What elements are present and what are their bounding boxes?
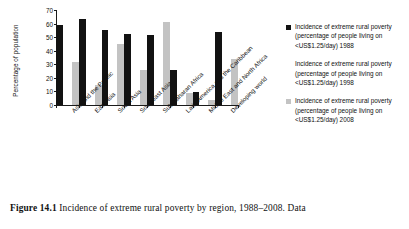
bar-1988	[56, 25, 63, 105]
legend-label: Incidence of extreme rural poverty (perc…	[295, 22, 406, 50]
legend-item: Incidence of extreme rural poverty (perc…	[286, 22, 406, 50]
plot-area: 010203040506070 Asia and the PacificEast…	[56, 10, 238, 105]
x-tick-mark	[102, 105, 103, 108]
white-square-icon	[286, 62, 291, 67]
figure-container: Percentage of population 010203040506070…	[0, 0, 409, 229]
gray-square-icon	[286, 99, 291, 104]
x-tick-mark	[193, 105, 194, 108]
figure-number: Figure 14.1	[10, 203, 57, 213]
legend-label: Incidence of extreme rural poverty (perc…	[295, 96, 406, 124]
x-tick-mark	[215, 105, 216, 108]
black-square-icon	[286, 25, 291, 30]
bar-2008	[72, 62, 79, 105]
legend-label: Incidence of extreme rural poverty (perc…	[295, 59, 406, 87]
x-tick-mark	[124, 105, 125, 108]
bar-chart: Percentage of population 010203040506070…	[0, 0, 258, 189]
x-tick-mark	[79, 105, 80, 108]
x-tick-mark	[238, 105, 239, 108]
y-axis-label: Percentage of population	[12, 16, 19, 106]
caption-text: Incidence of extreme rural poverty by re…	[59, 203, 306, 213]
legend-item: Incidence of extreme rural poverty (perc…	[286, 96, 406, 124]
legend-item: Incidence of extreme rural poverty (perc…	[286, 59, 406, 87]
x-tick-mark	[147, 105, 148, 108]
x-tick-mark	[170, 105, 171, 108]
bar-group	[56, 10, 79, 105]
x-tick-mark	[56, 105, 57, 108]
bar-1988	[79, 19, 86, 105]
bar-2008	[117, 44, 124, 105]
figure-caption: Figure 14.1 Incidence of extreme rural p…	[10, 203, 402, 213]
chart-legend: Incidence of extreme rural poverty (perc…	[286, 22, 406, 134]
bar-group	[102, 10, 125, 105]
